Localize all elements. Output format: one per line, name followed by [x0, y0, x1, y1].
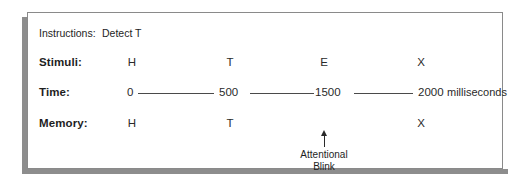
time-segment-1 [138, 93, 214, 94]
stimulus-item-4: X [409, 56, 433, 68]
attentional-blink-line-1: Attentional [264, 149, 384, 161]
attentional-blink-annotation: Attentional Blink [264, 149, 384, 172]
time-tick-3: 2000 [418, 86, 444, 98]
memory-label: Memory: [39, 117, 88, 129]
time-units-label: milliseconds [447, 86, 507, 98]
stimulus-item-3: E [312, 56, 336, 68]
time-tick-2: 1500 [315, 86, 341, 98]
memory-item-1: H [120, 117, 144, 129]
time-label: Time: [39, 86, 70, 98]
time-segment-3 [354, 93, 413, 94]
up-arrow-stem [324, 134, 325, 147]
attentional-blink-figure: Instructions: Detect T Stimuli: H T E X … [0, 0, 528, 190]
attentional-blink-line-2: Blink [264, 161, 384, 173]
diagram-panel: Instructions: Detect T Stimuli: H T E X … [27, 12, 503, 169]
time-tick-1: 500 [219, 86, 238, 98]
memory-item-4: X [409, 117, 433, 129]
instructions-value: Detect T [102, 27, 142, 39]
time-segment-2 [250, 93, 314, 94]
stimulus-item-1: H [120, 56, 144, 68]
memory-item-2: T [218, 117, 242, 129]
stimulus-item-2: T [218, 56, 242, 68]
time-tick-0: 0 [127, 86, 133, 98]
stimuli-label: Stimuli: [39, 56, 82, 68]
instructions-label: Instructions: [39, 27, 96, 39]
